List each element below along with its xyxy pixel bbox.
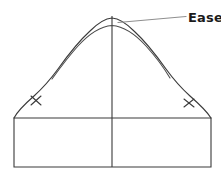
diagram-background xyxy=(0,0,221,176)
sleeve-cap-drawing: Ease xyxy=(0,0,221,176)
ease-label: Ease xyxy=(188,10,221,25)
sleeve-cap-diagram: Ease xyxy=(0,0,221,176)
